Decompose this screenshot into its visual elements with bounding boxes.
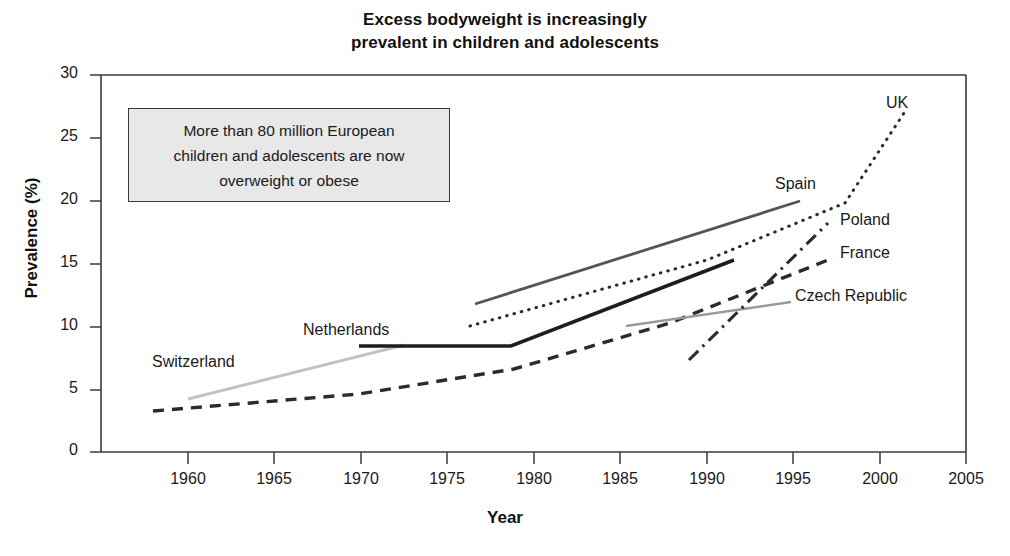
series-france [153,258,833,411]
series-label-spain: Spain [775,175,816,193]
series-czech-republic [626,302,791,326]
y-tick-25: 25 [38,127,78,145]
callout-box: More than 80 million European children a… [128,108,450,202]
x-tick-1980: 1980 [504,470,564,488]
chart-figure: Excess bodyweight is increasingly preval… [0,0,1010,556]
callout-line-2: children and adolescents are now [174,147,405,164]
x-axis-label: Year [0,508,1010,528]
series-label-netherlands: Netherlands [303,321,389,339]
x-tick-1960: 1960 [158,470,218,488]
y-tick-30: 30 [38,64,78,82]
x-tick-1970: 1970 [331,470,391,488]
y-tick-15: 15 [38,253,78,271]
y-tick-5: 5 [38,379,78,397]
y-axis-label: Prevalence (%) [22,158,42,318]
callout-line-1: More than 80 million European [183,122,394,139]
y-tick-20: 20 [38,190,78,208]
x-axis-ticks [188,452,966,464]
series-label-czech-republic: Czech Republic [795,287,907,305]
series-netherlands [359,260,734,346]
x-tick-2000: 2000 [850,470,910,488]
x-tick-1985: 1985 [590,470,650,488]
series-spain [475,201,800,304]
y-axis-ticks [90,75,101,452]
y-tick-10: 10 [38,316,78,334]
series-label-poland: Poland [840,211,890,229]
x-tick-1990: 1990 [677,470,737,488]
x-tick-1995: 1995 [763,470,823,488]
x-tick-1975: 1975 [417,470,477,488]
series-label-uk: UK [886,94,908,112]
callout-line-3: overweight or obese [219,172,359,189]
y-tick-0: 0 [38,441,78,459]
series-label-france: France [840,244,890,262]
x-tick-2005: 2005 [936,470,996,488]
series-label-switzerland: Switzerland [152,353,235,371]
x-tick-1965: 1965 [244,470,304,488]
